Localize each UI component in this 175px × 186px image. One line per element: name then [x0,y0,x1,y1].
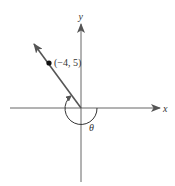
y-axis-label: y [78,11,84,22]
point-marker [46,60,51,65]
theta-label: θ [89,122,94,133]
terminal-ray [34,44,81,108]
coordinate-diagram: y x (−4, 5) θ [0,0,175,186]
point-label: (−4, 5) [54,57,81,69]
x-axis-label: x [162,103,168,114]
